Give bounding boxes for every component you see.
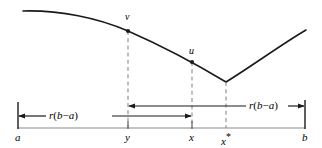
measure-right-close-paren: ) <box>274 99 278 111</box>
axis-label-y: y <box>125 132 130 143</box>
measure-left-close-paren: ) <box>74 109 78 121</box>
measure-label-left: r(b−a) <box>49 110 78 121</box>
figure-container: v u a y x x* b r(b−a) r(b−a) <box>0 0 322 148</box>
axis-label-a: a <box>15 132 21 143</box>
point-marker-u <box>190 60 194 64</box>
axis-label-b: b <box>302 132 308 143</box>
point-marker-v <box>126 29 130 33</box>
point-label-v: v <box>125 12 129 22</box>
point-label-u: u <box>189 46 194 56</box>
curve-right-branch <box>226 30 306 82</box>
axis-label-x-star-superscript: * <box>226 131 231 142</box>
axis-label-x: x <box>189 132 194 143</box>
figure-canvas <box>0 0 322 148</box>
axis-label-x-star: x* <box>221 132 231 147</box>
measure-label-right: r(b−a) <box>249 100 278 111</box>
